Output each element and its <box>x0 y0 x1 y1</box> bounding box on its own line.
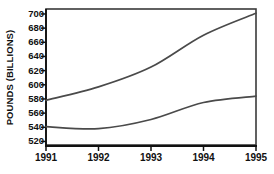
chart-canvas <box>0 0 274 174</box>
plot-frame-group <box>46 9 256 145</box>
plot-area-background <box>46 9 256 145</box>
line-chart: POUNDS (BILLIONS) 7006806606406206005805… <box>0 0 274 174</box>
